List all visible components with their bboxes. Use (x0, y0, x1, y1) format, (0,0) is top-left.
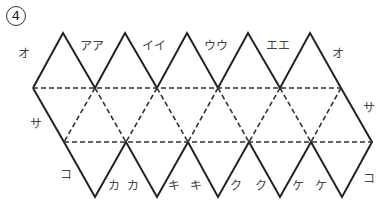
edge-label-bottom: カ (108, 180, 120, 192)
edge-label-side: サ (363, 102, 375, 114)
edge-label-top: オ (332, 48, 344, 60)
edge-label-bottom: カ (127, 180, 139, 192)
edge-label-top: ウウ (204, 40, 228, 52)
fold-lines (33, 88, 372, 142)
edge-label-bottom: キ (168, 180, 180, 192)
edge-label-bottom: コ (60, 169, 72, 181)
edge-label-top: オ (18, 48, 30, 60)
edge-label-bottom: ケ (315, 180, 327, 192)
edge-label-top: エエ (266, 40, 290, 52)
edge-label-bottom: ク (255, 180, 267, 192)
edge-label-bottom: ク (230, 180, 242, 192)
edge-label-bottom: ケ (292, 180, 304, 192)
edge-label-top: アア (80, 40, 104, 52)
solid-edges (33, 33, 372, 197)
icosahedron-net (0, 0, 389, 207)
edge-label-bottom: キ (190, 180, 202, 192)
edge-label-side: サ (30, 118, 42, 130)
edge-label-bottom: コ (363, 173, 375, 185)
edge-label-top: イイ (142, 40, 166, 52)
